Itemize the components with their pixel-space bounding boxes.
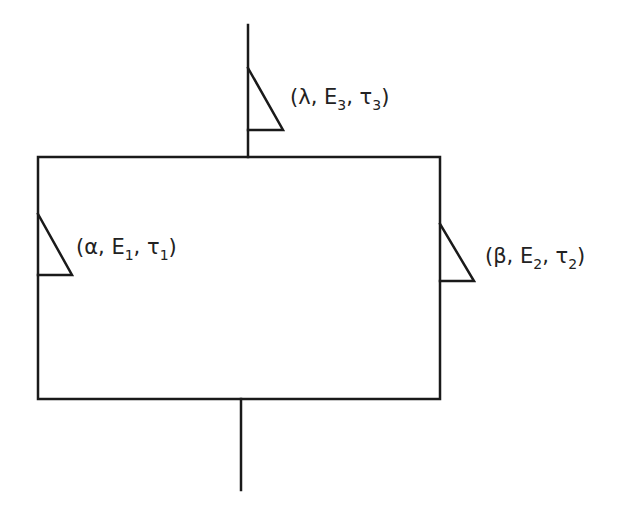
- left-triangle-marker: [38, 214, 72, 275]
- top-triangle-marker: [248, 68, 283, 130]
- right-label: (β, E2, τ2): [485, 244, 585, 272]
- left-label: (α, E1, τ1): [76, 235, 177, 263]
- main-block: [38, 157, 440, 399]
- diagram-canvas: (λ, E3, τ3) (α, E1, τ1) (β, E2, τ2): [0, 0, 627, 509]
- top-label: (λ, E3, τ3): [290, 85, 389, 113]
- right-triangle-marker: [440, 224, 474, 281]
